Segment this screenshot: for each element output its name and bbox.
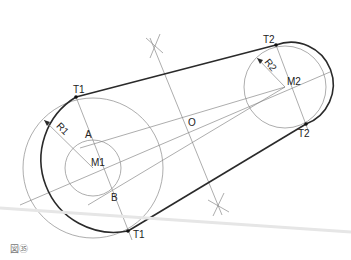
label-t2-bottom: T2: [298, 128, 310, 139]
label-r1: R1: [54, 120, 71, 137]
line-m2-a: [80, 87, 285, 148]
scan-artifact-line: [0, 208, 351, 232]
point-t2-top: [274, 43, 278, 47]
tangent-line-bottom: [128, 124, 306, 231]
label-b: B: [111, 192, 118, 203]
construction-diagram: T1 T1 T2 T2 R1 R2 M1 M2 A B O: [0, 0, 351, 260]
tangent-line-top: [76, 45, 276, 97]
radius-line-m2: [276, 45, 308, 130]
point-t1-top: [74, 95, 78, 99]
label-r2: R2: [262, 56, 279, 73]
label-o: O: [188, 117, 196, 128]
label-a: A: [85, 129, 92, 140]
label-m1: M1: [91, 157, 105, 168]
point-t2-bottom: [304, 122, 308, 126]
label-t1-bottom: T1: [133, 229, 145, 240]
radius-line-m1: [76, 97, 132, 240]
label-t2-top: T2: [263, 34, 275, 45]
perpendicular-bisector-line: [150, 38, 222, 215]
bisector-arc-mark-top: [146, 34, 163, 58]
center-line: [20, 72, 330, 205]
label-t1-top: T1: [73, 84, 85, 95]
line-m2-b: [88, 87, 285, 205]
point-t1-bottom: [126, 229, 130, 233]
bisector-arc-mark-bottom: [208, 193, 229, 216]
figure-caption: 図㉟: [10, 242, 28, 255]
label-m2: M2: [287, 76, 301, 87]
